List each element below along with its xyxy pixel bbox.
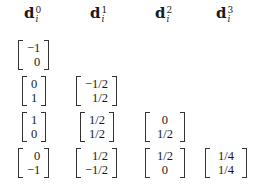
vector-bottom: 1/2 <box>157 127 173 141</box>
vector-top: 0 <box>34 149 40 163</box>
right-bracket <box>41 112 46 142</box>
vector-top: 1/2 <box>92 149 108 163</box>
vector-top: 1/2 <box>89 113 105 127</box>
vector-top: 0 <box>162 113 168 127</box>
vector-bottom: 0 <box>162 163 168 177</box>
right-bracket <box>180 148 185 178</box>
vector-top: 1/4 <box>218 149 234 163</box>
vector-top: 1/2 <box>157 149 173 163</box>
header-d3: d3i <box>216 6 233 24</box>
vector-r2-c2: 01/2 <box>145 112 185 142</box>
right-bracket <box>44 40 49 70</box>
vector-bottom: 0 <box>34 55 40 69</box>
header-base: d <box>155 4 166 22</box>
vector-r1-c0: 01 <box>22 76 46 106</box>
header-base: d <box>90 4 101 22</box>
right-bracket <box>41 76 46 106</box>
vector-r3-c3: 1/41/4 <box>205 148 247 178</box>
header-base: d <box>24 4 35 22</box>
vector-bottom: 0 <box>31 127 37 141</box>
vector-bottom: 1 <box>31 91 37 105</box>
header-subscript: i <box>36 15 42 24</box>
vector-bottom: −1/2 <box>85 163 108 177</box>
header-d2: d2i <box>155 6 172 24</box>
vector-top: 0 <box>31 77 37 91</box>
vector-r1-c1: −1/21/2 <box>76 76 117 106</box>
vector-bottom: 1/4 <box>218 163 234 177</box>
vector-bottom: −1 <box>27 163 40 177</box>
vector-top: −1/2 <box>85 77 108 91</box>
right-bracket <box>112 76 117 106</box>
vector-r0-c0: −10 <box>18 40 49 70</box>
header-d0: d0i <box>24 6 41 24</box>
vector-top: 1 <box>31 113 37 127</box>
right-bracket <box>112 148 117 178</box>
header-d1: d1i <box>90 6 107 24</box>
header-subscript: i <box>102 15 108 24</box>
right-bracket <box>109 112 114 142</box>
header-base: d <box>216 4 227 22</box>
vector-bottom: 1/2 <box>92 91 108 105</box>
vector-bottom: 1/2 <box>89 127 105 141</box>
vector-r3-c2: 1/20 <box>145 148 185 178</box>
right-bracket <box>242 148 247 178</box>
vector-r3-c1: 1/2−1/2 <box>76 148 117 178</box>
vector-r2-c1: 1/21/2 <box>80 112 114 142</box>
vector-r3-c0: 0−1 <box>18 148 49 178</box>
header-subscript: i <box>167 15 173 24</box>
header-subscript: i <box>228 15 234 24</box>
right-bracket <box>180 112 185 142</box>
vector-r2-c0: 10 <box>22 112 46 142</box>
right-bracket <box>44 148 49 178</box>
vector-top: −1 <box>27 41 40 55</box>
